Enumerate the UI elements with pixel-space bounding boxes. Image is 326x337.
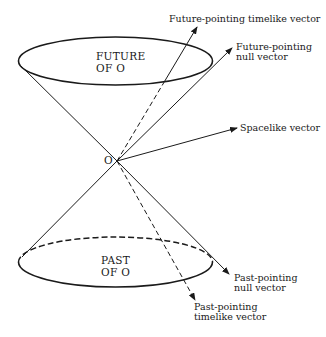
spacelike-vector-label: Spacelike vector: [240, 122, 321, 133]
past-region-label-line1: PAST: [101, 254, 130, 266]
apex-label: O: [104, 154, 113, 166]
past-null-vector-arrow: [117, 161, 229, 274]
light-cone-diagram: O FUTURE OF O PAST OF O Future-pointing …: [0, 0, 326, 337]
future-region-label-line1: FUTURE: [96, 50, 145, 62]
past-null-vector-label-line2: null vector: [234, 282, 286, 293]
future-timelike-vector-label: Future-pointing timelike vector: [169, 13, 321, 24]
cone-line-right-top-to-left-bottom: [22, 161, 117, 257]
spacelike-vector-arrow: [117, 128, 237, 161]
past-region-label-line2: OF O: [101, 266, 130, 278]
cone-line-left-top-to-right-bottom: [21, 66, 117, 161]
future-null-vector-label-line2: null vector: [236, 51, 288, 62]
future-region-label-line2: OF O: [96, 62, 125, 74]
past-timelike-vector-label-line2: timelike vector: [194, 311, 267, 322]
